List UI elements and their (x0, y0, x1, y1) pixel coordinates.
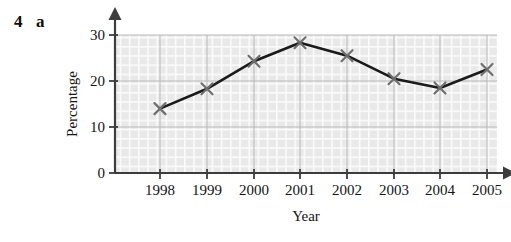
x-tick-label-2005: 2005 (472, 182, 502, 198)
x-tick-label-1998: 1998 (145, 182, 175, 198)
y-tick-label-20: 20 (90, 73, 105, 89)
x-tick-label-1999: 1999 (192, 182, 222, 198)
x-tick-label-2000: 2000 (239, 182, 269, 198)
y-tick-label-10: 10 (90, 119, 105, 135)
x-axis-title: Year (292, 208, 320, 224)
y-axis-title: Percentage (64, 71, 80, 137)
chart-svg: 0 10 20 30 1998 1999 2000 2001 2002 2003 (0, 0, 511, 242)
x-tick-label-2004: 2004 (425, 182, 456, 198)
x-tick-label-2003: 2003 (379, 182, 409, 198)
line-chart: 0 10 20 30 1998 1999 2000 2001 2002 2003 (0, 0, 511, 242)
figure-panel: 4a (0, 0, 511, 242)
x-tick-label-2001: 2001 (285, 182, 315, 198)
y-tick-label-30: 30 (90, 27, 105, 43)
y-tick-label-0: 0 (98, 165, 106, 181)
x-tick-label-2002: 2002 (332, 182, 362, 198)
